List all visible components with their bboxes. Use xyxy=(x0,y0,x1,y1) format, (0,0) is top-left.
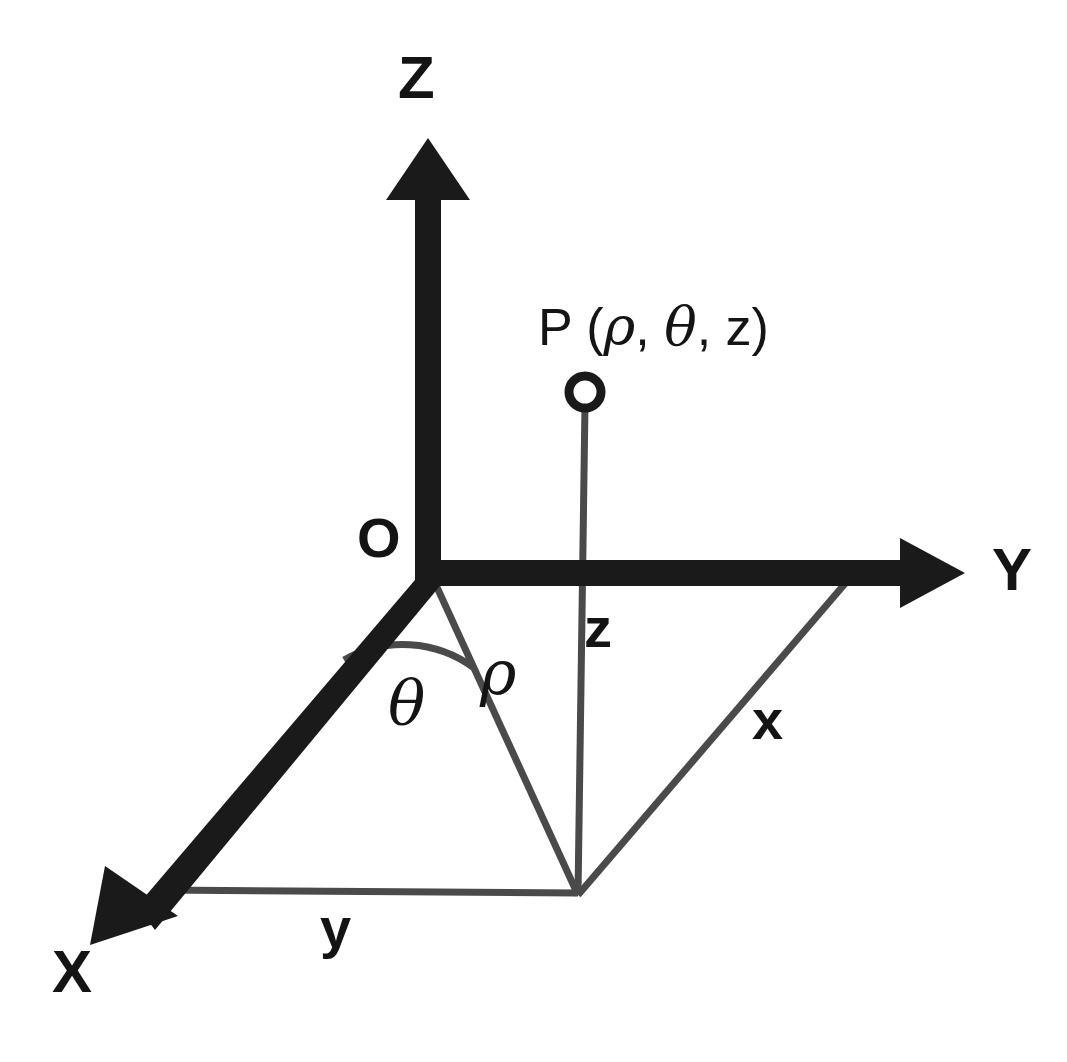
point-p-suffix: ) xyxy=(752,298,769,356)
axis-lines xyxy=(90,138,965,945)
axis-label-y: Y xyxy=(992,540,1032,600)
y-axis-shaft xyxy=(424,560,904,586)
rho-line xyxy=(430,572,578,895)
axis-label-z: Z xyxy=(398,48,435,108)
x-component-label: x xyxy=(752,692,783,748)
cylindrical-coordinate-diagram: Z Y X O ρ θ z x y P (ρ, θ, z) xyxy=(0,0,1067,1062)
y-component-line xyxy=(160,890,578,893)
z-component-label: z xyxy=(584,600,612,656)
z-axis-shaft xyxy=(415,190,441,582)
axis-label-x: X xyxy=(52,942,92,1002)
origin-label: O xyxy=(357,510,401,566)
x-axis-shaft xyxy=(137,560,444,930)
point-p-z-symbol: z xyxy=(726,298,752,356)
z-axis-arrowhead xyxy=(386,138,470,200)
theta-label: θ xyxy=(388,672,425,734)
point-p-marker xyxy=(569,376,601,408)
point-p-prefix: P ( xyxy=(538,298,604,356)
point-p-label: P (ρ, θ, z) xyxy=(538,300,769,354)
point-p-theta-symbol: θ xyxy=(664,295,697,358)
diagram-canvas xyxy=(0,0,1067,1062)
point-p-sep-2: , xyxy=(697,298,726,356)
point-p-sep-1: , xyxy=(635,298,664,356)
point-p-rho-symbol: ρ xyxy=(604,295,636,358)
x-component-line xyxy=(578,572,855,895)
rho-label: ρ xyxy=(480,642,516,704)
y-component-label: y xyxy=(320,900,351,956)
y-axis-arrowhead xyxy=(900,538,965,608)
